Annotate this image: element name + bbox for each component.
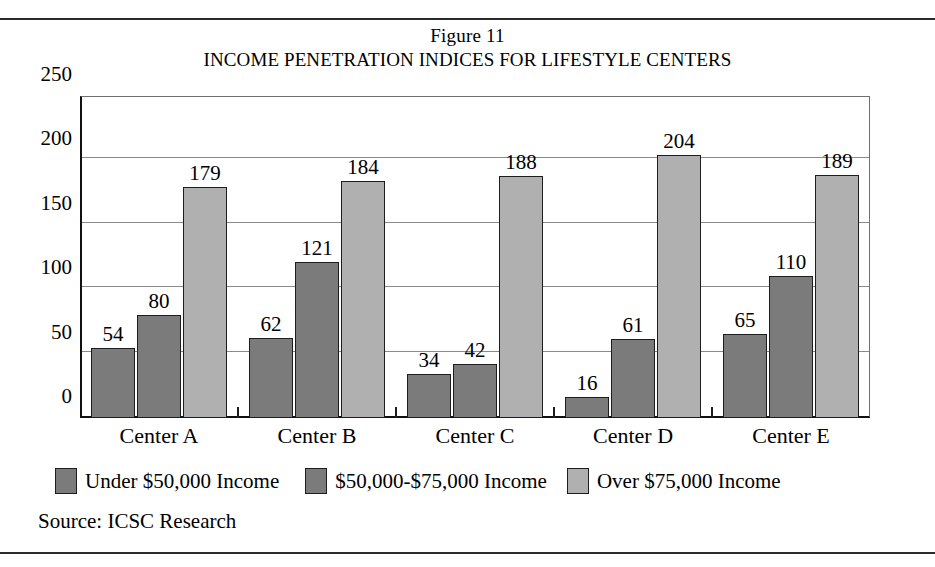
bar-5-1[interactable]: 65 (723, 334, 767, 418)
legend-item-1[interactable]: $50,000-$75,000 Income (305, 468, 547, 494)
bar-value-label: 61 (623, 314, 644, 336)
figure-container: Figure 11 INCOME PENETRATION INDICES FOR… (0, 0, 935, 567)
bar-3-1[interactable]: 34 (407, 374, 451, 418)
legend-swatch-icon-1 (305, 468, 327, 494)
bar-1-1[interactable]: 54 (91, 348, 135, 418)
x-axis-labels: Center ACenter BCenter CCenter DCenter E (80, 422, 870, 452)
bar-4-1[interactable]: 16 (565, 397, 609, 418)
bar-value-label: 80 (149, 290, 170, 312)
bar-3-2[interactable]: 42 (453, 364, 497, 418)
bar-group-4: 1661204 (554, 96, 712, 418)
bar-value-label: 121 (301, 237, 333, 259)
bar-value-label: 189 (821, 150, 853, 172)
bar-value-label: 65 (735, 309, 756, 331)
y-tick-label-50: 50 (8, 322, 80, 343)
bar-1-2[interactable]: 80 (137, 315, 181, 418)
bar-value-label: 42 (465, 339, 486, 361)
bar-value-label: 179 (189, 162, 221, 184)
bar-value-label: 62 (261, 313, 282, 335)
bar-value-label: 34 (419, 349, 440, 371)
bar-group-5: 65110189 (712, 96, 870, 418)
bar-value-label: 184 (347, 156, 379, 178)
bar-5-3[interactable]: 189 (815, 175, 859, 418)
bar-2-2[interactable]: 121 (295, 262, 339, 418)
bar-value-label: 204 (663, 130, 695, 152)
legend-swatch-icon-0 (55, 468, 77, 494)
x-label-3: Center C (436, 422, 515, 450)
bar-group-3: 3442188 (396, 96, 554, 418)
x-label-5: Center E (752, 422, 830, 450)
legend-swatch-icon-2 (567, 468, 589, 494)
bar-2-1[interactable]: 62 (249, 338, 293, 418)
legend-item-0[interactable]: Under $50,000 Income (55, 468, 279, 494)
bar-4-3[interactable]: 204 (657, 155, 701, 418)
x-label-2: Center B (278, 422, 357, 450)
bar-group-2: 62121184 (238, 96, 396, 418)
bar-1-3[interactable]: 179 (183, 187, 227, 418)
y-tick-label-0: 0 (8, 386, 80, 407)
legend-label-1: $50,000-$75,000 Income (335, 468, 547, 494)
x-label-4: Center D (593, 422, 673, 450)
chart-legend: Under $50,000 Income $50,000-$75,000 Inc… (55, 464, 885, 498)
x-label-1: Center A (120, 422, 199, 450)
legend-label-0: Under $50,000 Income (85, 468, 279, 494)
y-axis: 050100150200250 (0, 96, 80, 418)
y-tick-label-200: 200 (8, 128, 80, 149)
bar-value-label: 54 (103, 323, 124, 345)
y-tick-label-150: 150 (8, 193, 80, 214)
legend-label-2: Over $75,000 Income (597, 468, 781, 494)
bar-4-2[interactable]: 61 (611, 339, 655, 418)
bar-group-1: 5480179 (80, 96, 238, 418)
y-tick-label-100: 100 (8, 257, 80, 278)
source-note: Source: ICSC Research (38, 508, 236, 534)
bottom-rule (0, 552, 935, 554)
bar-2-3[interactable]: 184 (341, 181, 385, 418)
bar-value-label: 188 (505, 151, 537, 173)
bar-5-2[interactable]: 110 (769, 276, 813, 418)
y-tick-label-250: 250 (8, 64, 80, 85)
bar-series-container: 5480179621211843442188166120465110189 (80, 96, 870, 418)
bar-3-3[interactable]: 188 (499, 176, 543, 418)
bar-value-label: 16 (577, 372, 598, 394)
bar-value-label: 110 (776, 251, 807, 273)
legend-item-2[interactable]: Over $75,000 Income (567, 468, 781, 494)
